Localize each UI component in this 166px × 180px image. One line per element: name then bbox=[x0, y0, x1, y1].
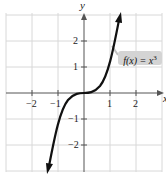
x-axis-label: x bbox=[163, 92, 166, 104]
svg-text:−1: −1 bbox=[68, 113, 79, 124]
cubic-function-plot: −2 −1 1 2 2 1 −1 −2 bbox=[0, 0, 166, 180]
curve-arrow-top-icon bbox=[115, 12, 122, 23]
function-label-exponent: 3 bbox=[153, 54, 157, 62]
curve-arrow-bottom-icon bbox=[46, 163, 53, 174]
svg-text:1: 1 bbox=[107, 98, 112, 109]
svg-text:1: 1 bbox=[73, 61, 78, 72]
svg-text:2: 2 bbox=[133, 98, 138, 109]
y-axis-arrow-icon bbox=[81, 13, 87, 20]
svg-text:−2: −2 bbox=[68, 139, 79, 150]
function-label-text: f(x) = x bbox=[123, 55, 153, 66]
function-label: f(x) = x3 bbox=[118, 51, 162, 65]
svg-text:2: 2 bbox=[73, 35, 78, 46]
y-axis-label: y bbox=[80, 0, 85, 11]
svg-text:−2: −2 bbox=[26, 98, 37, 109]
svg-text:−1: −1 bbox=[50, 98, 61, 109]
